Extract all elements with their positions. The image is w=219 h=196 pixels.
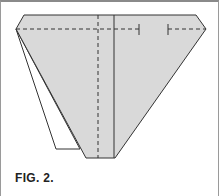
figure-panel: FIG. 2.: [0, 0, 219, 196]
origami-diagram: [0, 0, 219, 196]
figure-caption: FIG. 2.: [15, 171, 54, 185]
